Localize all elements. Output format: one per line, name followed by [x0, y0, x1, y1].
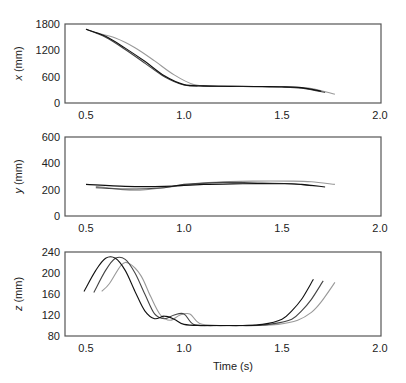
panel-x: 0600120018000.51.01.52.0x (mm): [12, 18, 388, 121]
y-tick-label: 0: [54, 97, 60, 109]
x-tick-label: 2.0: [372, 222, 387, 234]
x-axis-label: Time (s): [213, 360, 253, 372]
y-tick-label: 1800: [36, 18, 60, 30]
series-line: [94, 257, 323, 325]
plot-frame: [65, 137, 381, 216]
y-tick-label: 600: [42, 71, 60, 83]
chart-figure: 0600120018000.51.01.52.0x (mm)0200400600…: [0, 0, 406, 383]
x-tick-label: 1.0: [176, 222, 191, 234]
y-axis-label: z (mm): [12, 277, 24, 312]
x-tick-label: 2.0: [372, 342, 387, 354]
x-tick-label: 1.5: [274, 342, 289, 354]
x-tick-label: 1.5: [274, 222, 289, 234]
series-line: [86, 29, 325, 92]
y-axis-label: y (mm): [12, 159, 24, 194]
x-tick-label: 1.5: [274, 109, 289, 121]
plot-frame: [65, 24, 381, 103]
plot-frame: [65, 252, 381, 336]
y-tick-label: 240: [42, 246, 60, 258]
y-tick-label: 80: [48, 330, 60, 342]
panel-y: 02004006000.51.01.52.0y (mm): [12, 131, 388, 234]
y-tick-label: 200: [42, 267, 60, 279]
series-line: [86, 184, 325, 187]
series-line: [84, 257, 313, 326]
y-tick-label: 120: [42, 309, 60, 321]
y-tick-label: 0: [54, 210, 60, 222]
x-tick-label: 1.0: [176, 342, 191, 354]
panel-z: 801201602002400.51.01.52.0z (mm)Time (s): [12, 246, 388, 372]
y-tick-label: 400: [42, 157, 60, 169]
series-line: [86, 29, 321, 91]
y-tick-label: 1200: [36, 44, 60, 56]
x-tick-label: 1.0: [176, 109, 191, 121]
x-tick-label: 0.5: [78, 342, 93, 354]
series-line: [96, 33, 335, 94]
x-tick-label: 2.0: [372, 109, 387, 121]
x-tick-label: 0.5: [78, 109, 93, 121]
y-tick-label: 200: [42, 184, 60, 196]
y-axis-label: x (mm): [12, 46, 24, 81]
x-tick-label: 0.5: [78, 222, 93, 234]
y-tick-label: 600: [42, 131, 60, 143]
y-tick-label: 160: [42, 288, 60, 300]
